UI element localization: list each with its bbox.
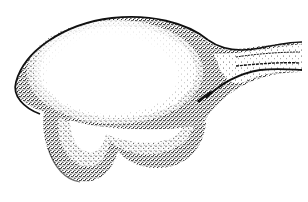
stippled-organ-illustration (0, 0, 308, 202)
illustration-canvas (0, 0, 308, 202)
